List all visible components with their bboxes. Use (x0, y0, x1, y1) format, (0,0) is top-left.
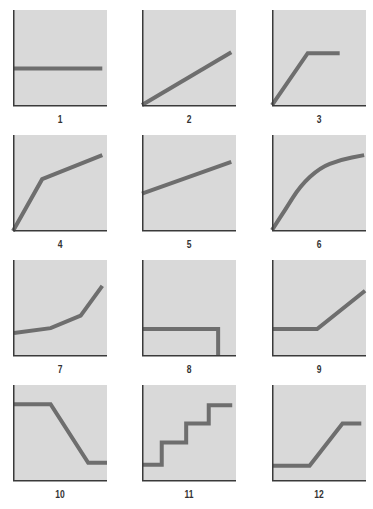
graph-label-1: 1 (20, 114, 100, 125)
plot-background (272, 135, 366, 231)
graph-plot-12 (272, 385, 366, 482)
graph-panel-7: 7 (13, 260, 107, 372)
graph-panel-12: 12 (272, 385, 366, 497)
graph-panel-11: 11 (142, 385, 236, 497)
graph-label-7: 7 (20, 364, 100, 375)
graph-panel-8: 8 (142, 260, 236, 372)
graph-panel-4: 4 (13, 135, 107, 247)
plot-background (13, 10, 107, 106)
graph-plot-10 (13, 385, 107, 482)
graph-label-4: 4 (20, 239, 100, 250)
plot-background (13, 385, 107, 481)
graph-label-10: 10 (20, 489, 100, 500)
graph-plot-1 (13, 10, 107, 107)
graph-panel-3: 3 (272, 10, 366, 122)
graph-panel-9: 9 (272, 260, 366, 372)
graph-plot-8 (142, 260, 236, 357)
plot-background (142, 135, 236, 231)
graph-plot-7 (13, 260, 107, 357)
plot-background (272, 260, 366, 356)
graph-grid: 1 2 3 4 5 6 7 8 9 10 11 12 (0, 0, 373, 509)
graph-plot-3 (272, 10, 366, 107)
graph-plot-5 (142, 135, 236, 232)
graph-label-3: 3 (279, 114, 359, 125)
plot-background (13, 260, 107, 356)
graph-plot-9 (272, 260, 366, 357)
graph-panel-1: 1 (13, 10, 107, 122)
graph-plot-6 (272, 135, 366, 232)
plot-background (142, 260, 236, 356)
plot-background (272, 10, 366, 106)
graph-panel-5: 5 (142, 135, 236, 247)
graph-plot-4 (13, 135, 107, 232)
graph-label-5: 5 (149, 239, 229, 250)
graph-label-12: 12 (279, 489, 359, 500)
graph-panel-10: 10 (13, 385, 107, 497)
graph-plot-2 (142, 10, 236, 107)
graph-panel-6: 6 (272, 135, 366, 247)
graph-label-6: 6 (279, 239, 359, 250)
graph-label-2: 2 (149, 114, 229, 125)
plot-background (13, 135, 107, 231)
graph-plot-11 (142, 385, 236, 482)
graph-label-8: 8 (149, 364, 229, 375)
graph-panel-2: 2 (142, 10, 236, 122)
graph-label-11: 11 (149, 489, 229, 500)
graph-label-9: 9 (279, 364, 359, 375)
